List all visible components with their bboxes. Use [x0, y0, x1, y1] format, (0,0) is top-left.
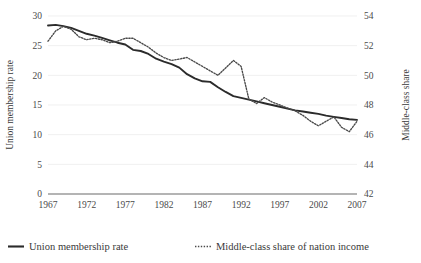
legend-label-1: Union membership rate	[29, 241, 128, 252]
y2-axis-tick: 48	[364, 100, 374, 110]
y-axis-tick: 15	[33, 100, 43, 110]
x-axis-tick: 1987	[193, 200, 212, 210]
x-axis-tick: 1992	[232, 200, 251, 210]
y2-axis-tick: 42	[364, 189, 374, 199]
y-axis-tick-labels: 051015202530	[33, 11, 43, 199]
y2-axis-tick: 52	[364, 41, 374, 51]
x-axis-tick: 1982	[154, 200, 173, 210]
series-line-1	[48, 25, 357, 120]
legend-label-2: Middle-class share of nation income	[216, 241, 369, 252]
x-axis-tick: 1972	[77, 200, 96, 210]
y2-axis-tick: 54	[364, 11, 374, 21]
series-line-2	[48, 26, 357, 131]
x-axis-tick: 2007	[348, 200, 367, 210]
data-series	[48, 25, 357, 132]
y-axis-tick: 20	[33, 71, 43, 81]
y-axis-tick: 10	[33, 130, 43, 140]
x-axis-tick: 1967	[39, 200, 58, 210]
x-axis-tick: 2002	[309, 200, 328, 210]
y2-axis-tick: 46	[364, 130, 374, 140]
chart-legend: Union membership rateMiddle-class share …	[8, 241, 369, 252]
y2-axis-tick: 44	[364, 160, 374, 170]
y-axis-title: Union membership rate	[5, 60, 15, 150]
y2-axis-tick-labels: 42444648505254	[364, 11, 374, 199]
y-axis-tick: 0	[37, 189, 42, 199]
dual-axis-line-chart: 051015202530 42444648505254 196719721977…	[0, 0, 421, 263]
x-axis-tick: 1997	[270, 200, 289, 210]
chart-container: 051015202530 42444648505254 196719721977…	[0, 0, 421, 263]
y-axis-tick: 5	[37, 160, 42, 170]
x-axis-tick: 1977	[116, 200, 135, 210]
y-axis-tick: 30	[33, 11, 43, 21]
y-axis-tick: 25	[33, 41, 43, 51]
y2-axis-title: Middle-class share	[401, 69, 411, 141]
y2-axis-tick: 50	[364, 71, 374, 81]
x-axis-tick-labels: 196719721977198219871992199720022007	[39, 200, 367, 210]
